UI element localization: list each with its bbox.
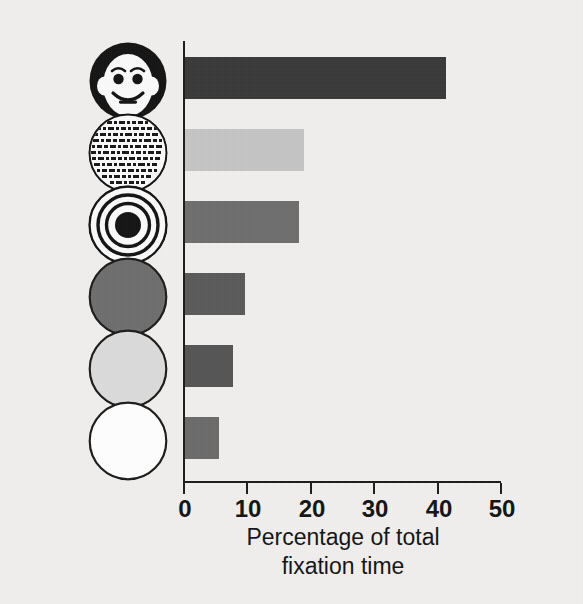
x-tick-label-0: 0 (155, 495, 215, 523)
plain-light-disc-icon (88, 329, 168, 409)
fixation-time-bar-chart: 0 10 20 30 40 50 Percentage of total fix… (0, 0, 583, 604)
bar-newsprint (184, 129, 304, 171)
newsprint-icon (88, 113, 168, 193)
bar-plain-light-disc (184, 345, 233, 387)
plain-white-disc-icon (88, 401, 168, 481)
x-axis-title-line1: Percentage of total (246, 524, 439, 550)
x-tick-label-20: 20 (282, 495, 342, 523)
x-tick-label-10: 10 (218, 495, 278, 523)
x-axis-title-line2: fixation time (183, 552, 503, 581)
x-axis-line (183, 481, 501, 483)
x-tick-30 (373, 483, 375, 494)
schematic-face-icon (88, 41, 168, 121)
bar-schematic-face (184, 57, 446, 99)
bar-plain-dark-disc (184, 273, 245, 315)
bar-bullseye (184, 201, 299, 243)
x-tick-label-40: 40 (409, 495, 469, 523)
x-tick-0 (183, 483, 185, 494)
x-tick-label-50: 50 (472, 495, 532, 523)
plain-dark-disc-icon (88, 257, 168, 337)
x-tick-50 (500, 483, 502, 494)
x-tick-label-30: 30 (345, 495, 405, 523)
x-tick-40 (437, 483, 439, 494)
x-tick-10 (246, 483, 248, 494)
y-axis-line (183, 41, 185, 482)
x-tick-20 (310, 483, 312, 494)
bullseye-icon (88, 185, 168, 265)
x-axis-title: Percentage of total fixation time (183, 523, 503, 582)
bar-plain-white-disc (184, 417, 219, 459)
